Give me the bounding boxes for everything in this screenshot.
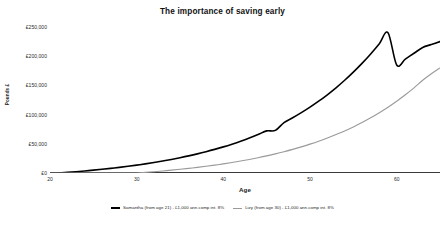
y-axis-tick-labels: £0£50,000£100,000£150,000£200,000£250,00… <box>0 0 47 227</box>
x-tick-label: 20 <box>38 176 62 182</box>
x-axis-tick-labels: 2030405060 <box>50 176 440 186</box>
x-tick-label: 60 <box>385 176 409 182</box>
legend-label: Samantha (from age 21) - £1,000 ann.comp… <box>123 205 224 211</box>
x-tick-label: 40 <box>211 176 235 182</box>
legend-item[interactable]: Lizy (from age 30) - £1,000 ann.comp int… <box>233 205 334 211</box>
x-tick-label: 30 <box>125 176 149 182</box>
y-tick-label: £200,000 <box>1 53 47 59</box>
chart-title: The importance of saving early <box>0 6 445 17</box>
y-tick-label: £100,000 <box>1 112 47 118</box>
legend-swatch-icon <box>233 208 242 209</box>
plot-area <box>50 27 440 173</box>
legend-item[interactable]: Samantha (from age 21) - £1,000 ann.comp… <box>111 205 224 211</box>
y-tick-label: £50,000 <box>1 141 47 147</box>
chart-container: The importance of saving early Pounds £ … <box>0 0 445 227</box>
series-line-1 <box>50 68 440 173</box>
legend-swatch-icon <box>111 207 120 209</box>
x-tick-label: 50 <box>298 176 322 182</box>
x-axis-title: Age <box>50 186 440 193</box>
y-tick-label: £150,000 <box>1 82 47 88</box>
chart-legend: Samantha (from age 21) - £1,000 ann.comp… <box>0 205 445 211</box>
legend-label: Lizy (from age 30) - £1,000 ann.comp int… <box>245 205 334 211</box>
series-line-0 <box>50 32 440 173</box>
y-tick-label: £250,000 <box>1 24 47 30</box>
plot-svg <box>50 27 440 173</box>
